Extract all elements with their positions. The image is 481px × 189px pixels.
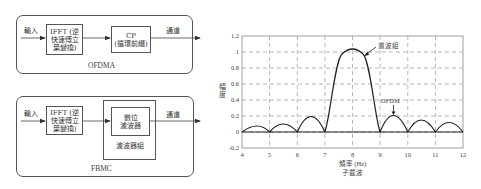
svg-text:11: 11 [432,151,438,158]
svg-text:0.2: 0.2 [231,112,239,119]
filterbank-annotation: 濾波組 [378,41,399,50]
svg-text:0.6: 0.6 [231,80,240,87]
svg-text:0.4: 0.4 [231,96,240,103]
svg-text:6: 6 [296,151,300,158]
svg-text:9: 9 [378,151,381,158]
svg-text:度: 度 [219,90,226,99]
svg-text:1: 1 [236,48,239,55]
svg-text:幅: 幅 [219,82,226,91]
svg-text:0.8: 0.8 [231,64,239,71]
x-axis-sublabel: 子載波 [342,168,363,177]
svg-text:12: 12 [460,151,467,158]
spectrum-plot: 1.2 1 0.8 0.6 0.4 0.2 0 -0.2 幅 度 4 5 6 7… [0,0,481,189]
x-tick-labels: 4 5 6 7 8 9 10 11 12 [240,151,466,158]
svg-text:10: 10 [405,151,412,158]
svg-text:1.2: 1.2 [231,32,239,39]
svg-text:-0.2: -0.2 [229,144,239,151]
y-axis-label: 幅 度 [219,82,226,99]
svg-text:7: 7 [323,151,327,158]
svg-text:0: 0 [236,128,239,135]
y-tick-labels: 1.2 1 0.8 0.6 0.4 0.2 0 -0.2 [229,32,240,151]
svg-text:5: 5 [268,151,271,158]
svg-text:4: 4 [240,151,244,158]
svg-text:8: 8 [351,151,354,158]
x-axis-label: 頻率 (Hz) [339,159,367,168]
ofdm-annotation: OFDM [381,97,400,104]
